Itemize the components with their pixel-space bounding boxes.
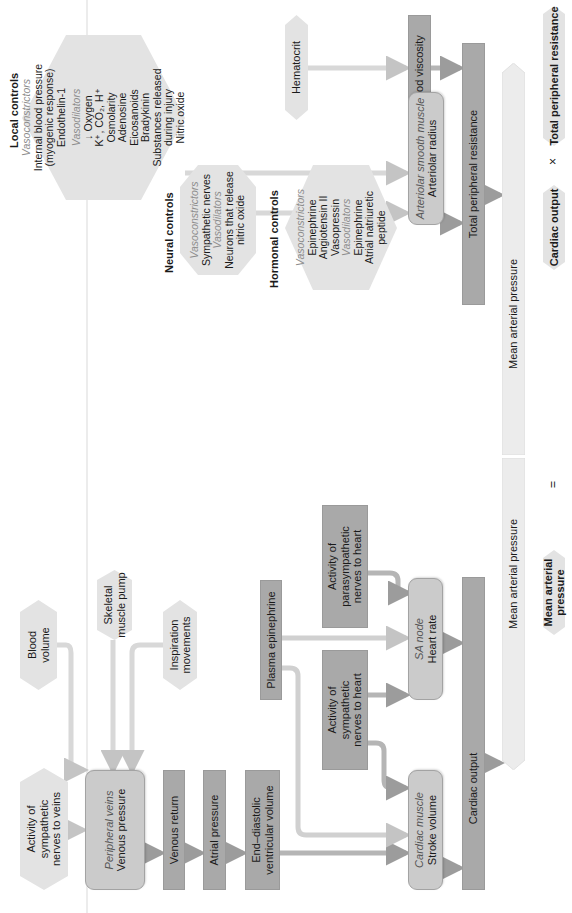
inspiration-movements-line: movements (180, 617, 193, 674)
parasympathetic-to-heart-box: Activity of parasympathetic nerves to he… (322, 505, 368, 628)
mean-arterial-pressure-arrow-left: Mean arterial pressure (502, 458, 525, 770)
mean-arterial-pressure-label: Mean arterial pressure (502, 458, 525, 770)
formula-times-sign: × (546, 158, 560, 165)
local-vasoconstrictor-item: (myogenic response) (44, 68, 56, 166)
sympathetic-to-heart-line: nerves to heart (351, 673, 364, 746)
end-diastolic-volume-box: End–diastolic ventricular volume (245, 770, 280, 890)
inspiration-movements-line: Inspiration (168, 620, 181, 671)
formula-equals-sign: = (546, 481, 560, 488)
local-controls-heading: Local controls (8, 73, 20, 148)
sympathetic-to-veins-line: nerves to veins (50, 792, 63, 866)
hematocrit-label: Hematocrit (285, 15, 308, 120)
parasympathetic-to-heart-line: parasympathetic (339, 526, 352, 607)
hormonal-controls-hexagon: Vasoconstrictors Epinephrine Angiotensin… (285, 165, 397, 290)
sympathetic-to-veins-line: sympathetic (38, 800, 51, 859)
local-vasodilators-label: Vasodilators (71, 89, 83, 146)
local-vasodilator-item: Bradykinin (140, 93, 152, 142)
sympathetic-to-heart-line: sympathetic (339, 681, 352, 740)
hormonal-vasoconstrictors-label: Vasoconstrictors (295, 189, 307, 266)
local-vasoconstrictor-item: Endothelin-1 (56, 88, 68, 147)
atrial-pressure-label: Atrial pressure (208, 795, 221, 866)
hormonal-vasodilator-item: peptide (376, 210, 388, 244)
skeletal-muscle-pump-line: Skeletal (102, 585, 115, 624)
local-vasodilator-item: during injury (163, 89, 175, 146)
formula-term1-label: Cardiac output (543, 185, 565, 270)
peripheral-veins-box: Peripheral veins Venous pressure (85, 770, 145, 890)
sympathetic-to-veins-hexagon: Activity of sympathetic nerves to veins (20, 768, 68, 890)
blood-volume-line: Blood (26, 631, 39, 659)
venous-return-box: Venous return (163, 770, 185, 890)
peripheral-veins-label: Peripheral veins (103, 791, 116, 870)
neural-vasodilator-item: nitric oxide (235, 195, 247, 245)
formula-total-peripheral-resistance: Total peripheral resistance (543, 6, 565, 146)
formula-term2-label: Total peripheral resistance (543, 6, 565, 146)
hormonal-vasodilators-label: Vasodilators (341, 199, 353, 256)
hormonal-vasodilator-item: Atrial natriuretic (364, 191, 376, 264)
formula-cardiac-output: Cardiac output (543, 185, 565, 270)
inspiration-movements-label: Inspiration movements (163, 600, 197, 690)
arteriolar-smooth-muscle-box: Arteriolar smooth muscle Arteriolar radi… (408, 92, 444, 225)
sa-node-label: SA node (413, 618, 426, 660)
neural-controls-heading: Neural controls (163, 192, 175, 273)
inspiration-movements-hexagon: Inspiration movements (163, 600, 197, 690)
plasma-epinephrine-box: Plasma epinephrine (260, 580, 282, 700)
cardiac-output-box: Cardiac output (462, 577, 485, 890)
local-controls-hexagon: Vasoconstrictors Internal blood pressure… (22, 35, 185, 200)
venous-pressure-label: Venous pressure (115, 789, 128, 872)
neural-controls-hexagon: Vasoconstrictors Sympathetic nerves Vaso… (180, 165, 256, 275)
arteriolar-radius-label: Arteriolar radius (426, 120, 439, 198)
cardiac-output-label: Cardiac output (467, 643, 480, 825)
stroke-volume-label: Stroke volume (426, 795, 439, 865)
heart-rate-label: Heart rate (426, 615, 439, 664)
blood-volume-hexagon: Blood volume (20, 600, 57, 690)
blood-volume-label: Blood volume (20, 600, 57, 690)
end-diastolic-line: End–diastolic (250, 797, 263, 862)
local-vasodilator-item: Nitric oxide (175, 92, 187, 144)
sympathetic-to-veins-label: Activity of sympathetic nerves to veins (20, 768, 68, 890)
venous-return-label: Venous return (168, 796, 181, 865)
sympathetic-to-heart-box: Activity of sympathetic nerves to heart (322, 650, 368, 770)
parasympathetic-to-heart-line: Activity of (326, 543, 339, 590)
diagram-canvas: Local controls Vasoconstrictors Internal… (0, 0, 572, 913)
skeletal-muscle-pump-line: muscle pump (115, 572, 128, 637)
hormonal-vasoconstrictor-item: Angiotensin II (318, 196, 330, 260)
total-peripheral-resistance-label: Total peripheral resistance (467, 110, 480, 238)
cardiac-muscle-box: Cardiac muscle Stroke volume (408, 770, 443, 890)
formula-mean-arterial-pressure: Mean arterial pressure (543, 550, 565, 635)
hematocrit-hexagon: Hematocrit (285, 15, 308, 120)
sa-node-box: SA node Heart rate (408, 578, 443, 700)
local-vasodilator-item: Adenosine (117, 93, 129, 143)
total-peripheral-resistance-box: Total peripheral resistance (462, 43, 485, 305)
plasma-epinephrine-label: Plasma epinephrine (265, 591, 278, 688)
hormonal-controls-heading: Hormonal controls (268, 190, 280, 288)
arteriolar-smooth-muscle-label: Arteriolar smooth muscle (414, 98, 427, 220)
atrial-pressure-box: Atrial pressure (203, 770, 226, 890)
parasympathetic-to-heart-line: nerves to heart (351, 530, 364, 603)
formula-lhs-label: Mean arterial pressure (543, 550, 565, 635)
end-diastolic-line: ventricular volume (263, 785, 276, 874)
local-vasoconstrictors-label: Vasoconstrictors (21, 79, 33, 156)
skeletal-muscle-pump-label: Skeletal muscle pump (97, 570, 132, 640)
blood-volume-line: volume (39, 627, 52, 662)
mean-arterial-pressure-arrow-right: Mean arterial pressure (502, 63, 525, 455)
mean-arterial-pressure-label: Mean arterial pressure (502, 63, 525, 455)
sympathetic-to-veins-line: Activity of (25, 805, 38, 852)
skeletal-muscle-pump-hexagon: Skeletal muscle pump (97, 570, 132, 640)
sympathetic-to-heart-line: Activity of (326, 686, 339, 733)
cardiac-muscle-label: Cardiac muscle (413, 792, 426, 868)
local-vasodilator-item: K⁺, CO₂, H⁺ (94, 88, 106, 146)
